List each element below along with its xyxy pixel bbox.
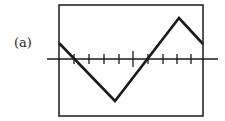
triangle-wave-diagram bbox=[0, 0, 225, 121]
